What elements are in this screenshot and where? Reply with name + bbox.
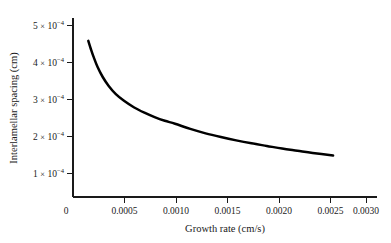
y-axis-group: 5×10−4 4×10−4 3×10−4 2×10−4 1×10−4 Inter… [8, 18, 73, 197]
y-tick-label-5: 5×10−4 [33, 19, 65, 31]
y-axis-ticks [67, 25, 73, 173]
x-tick-label-0.0025: 0.0025 [317, 206, 343, 216]
x-axis-ticks [125, 197, 367, 203]
y-tick-label-2: 2×10−4 [33, 130, 65, 142]
y-tick-labels: 5×10−4 4×10−4 3×10−4 2×10−4 1×10−4 [33, 19, 65, 179]
y-tick-label-3: 3×10−4 [33, 93, 65, 105]
y-tick-label-1: 1×10−4 [33, 167, 65, 179]
x-tick-label-0.0010: 0.0010 [163, 206, 189, 216]
x-tick-label-0.0005: 0.0005 [111, 206, 137, 216]
y-tick-label-4: 4×10−4 [33, 56, 65, 68]
data-curve-interlamellar-spacing [88, 41, 333, 156]
data-series-group [88, 41, 333, 156]
y-axis-title: Interlamellar spacing (cm) [8, 52, 20, 164]
plot-canvas: 5×10−4 4×10−4 3×10−4 2×10−4 1×10−4 Inter… [0, 0, 391, 243]
x-tick-label-origin: 0 [64, 206, 69, 216]
x-tick-labels: 0 0.0005 0.0010 0.0015 0.0020 0.0025 0.0… [64, 206, 380, 216]
x-axis-group: 0 0.0005 0.0010 0.0015 0.0020 0.0025 0.0… [64, 197, 380, 235]
x-tick-label-0.0020: 0.0020 [266, 206, 292, 216]
chart-figure: 5×10−4 4×10−4 3×10−4 2×10−4 1×10−4 Inter… [0, 0, 391, 243]
x-tick-label-0.0015: 0.0015 [214, 206, 240, 216]
x-axis-title: Growth rate (cm/s) [185, 223, 265, 235]
x-tick-label-0.0030: 0.0030 [353, 206, 379, 216]
